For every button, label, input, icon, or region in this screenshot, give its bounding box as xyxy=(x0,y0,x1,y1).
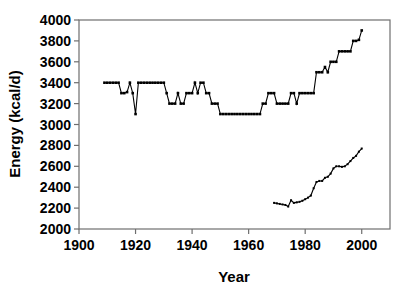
data-point-marker xyxy=(256,113,259,116)
data-point-marker xyxy=(191,92,194,95)
data-point-marker xyxy=(341,166,343,168)
data-point-marker xyxy=(245,113,248,116)
data-point-marker xyxy=(188,92,191,95)
data-point-marker xyxy=(267,92,270,95)
data-point-marker xyxy=(160,81,163,84)
x-tick-label: 2000 xyxy=(346,237,377,253)
data-point-marker xyxy=(117,81,120,84)
data-point-marker xyxy=(114,81,117,84)
data-point-marker xyxy=(296,201,298,203)
y-axis-ticks xyxy=(74,20,79,229)
data-point-marker xyxy=(290,92,293,95)
data-point-marker xyxy=(341,50,344,53)
data-point-marker xyxy=(310,195,312,197)
data-point-marker xyxy=(355,40,358,43)
y-tick-label: 4000 xyxy=(40,12,71,28)
data-point-marker xyxy=(259,113,262,116)
data-point-marker xyxy=(157,81,160,84)
data-point-marker xyxy=(276,102,279,105)
data-point-marker xyxy=(352,157,354,159)
data-point-marker xyxy=(295,102,298,105)
data-point-marker xyxy=(151,81,154,84)
data-point-marker xyxy=(171,102,174,105)
data-point-marker xyxy=(315,71,318,74)
data-point-marker xyxy=(236,113,239,116)
data-point-marker xyxy=(327,176,329,178)
data-point-marker xyxy=(228,113,231,116)
data-point-marker xyxy=(315,181,317,183)
data-point-marker xyxy=(301,92,304,95)
data-point-marker xyxy=(270,92,273,95)
data-point-marker xyxy=(298,92,301,95)
data-point-marker xyxy=(324,66,327,69)
data-point-marker xyxy=(284,204,286,206)
series-1 xyxy=(103,29,363,115)
x-tick-label: 1940 xyxy=(177,237,208,253)
data-point-marker xyxy=(137,81,140,84)
y-axis-tick-labels: 2000220024002600280030003200340036003800… xyxy=(40,12,71,237)
data-point-marker xyxy=(140,81,143,84)
data-point-marker xyxy=(146,81,149,84)
data-point-marker xyxy=(196,92,199,95)
data-point-marker xyxy=(324,177,326,179)
data-point-marker xyxy=(344,165,346,167)
y-tick-label: 3800 xyxy=(40,33,71,49)
data-point-marker xyxy=(213,102,216,105)
data-point-marker xyxy=(313,187,315,189)
data-point-marker xyxy=(349,50,352,53)
y-tick-label: 2400 xyxy=(40,179,71,195)
data-point-marker xyxy=(287,206,289,208)
data-point-marker xyxy=(194,81,197,84)
data-point-marker xyxy=(321,180,323,182)
data-point-marker xyxy=(358,39,361,42)
data-point-marker xyxy=(225,113,228,116)
data-point-marker xyxy=(346,50,349,53)
y-tick-label: 3000 xyxy=(40,117,71,133)
data-point-marker xyxy=(264,102,267,105)
data-point-marker xyxy=(109,81,112,84)
data-point-marker xyxy=(179,102,182,105)
data-point-marker xyxy=(120,92,123,95)
data-point-marker xyxy=(273,92,276,95)
x-tick-label: 1900 xyxy=(63,237,94,253)
data-point-marker xyxy=(347,163,349,165)
data-point-marker xyxy=(307,92,310,95)
data-point-marker xyxy=(352,40,355,43)
data-point-marker xyxy=(247,113,250,116)
data-point-marker xyxy=(123,92,126,95)
x-axis-ticks xyxy=(79,229,362,234)
data-point-marker xyxy=(293,92,296,95)
x-tick-label: 1920 xyxy=(120,237,151,253)
data-point-marker xyxy=(278,102,281,105)
data-point-marker xyxy=(199,81,202,84)
y-axis-title: Energy (kcal/d) xyxy=(6,70,23,178)
data-point-marker xyxy=(131,92,134,95)
data-point-marker xyxy=(312,92,315,95)
y-tick-label: 2600 xyxy=(40,158,71,174)
series-2 xyxy=(273,148,363,208)
data-point-marker xyxy=(126,91,129,94)
y-tick-label: 3400 xyxy=(40,75,71,91)
data-point-marker xyxy=(185,92,188,95)
y-tick-label: 2000 xyxy=(40,221,71,237)
data-point-marker xyxy=(321,71,324,74)
energy-time-series-chart: 190019201940196019802000 200022002400260… xyxy=(0,0,411,288)
y-tick-label: 3600 xyxy=(40,54,71,70)
data-point-marker xyxy=(177,92,180,95)
data-point-marker xyxy=(310,92,313,95)
data-point-marker xyxy=(208,92,211,95)
data-point-marker xyxy=(318,71,321,74)
data-point-marker xyxy=(281,102,284,105)
data-point-marker xyxy=(338,165,340,167)
data-point-marker xyxy=(360,29,363,32)
data-point-marker xyxy=(273,202,275,204)
data-point-marker xyxy=(129,81,132,84)
data-point-marker xyxy=(284,102,287,105)
data-point-marker xyxy=(361,148,363,150)
data-point-marker xyxy=(343,50,346,53)
data-point-marker xyxy=(174,102,177,105)
data-point-marker xyxy=(335,165,337,167)
data-point-marker xyxy=(163,81,166,84)
data-point-marker xyxy=(211,102,214,105)
data-point-marker xyxy=(355,155,357,157)
